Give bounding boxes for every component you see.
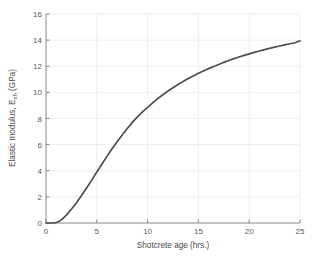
y-axis-title-main: Elastic modulus, E [8,99,17,167]
y-tick-label: 4 [38,167,43,176]
y-tick-label: 2 [38,193,43,202]
y-tick-label: 6 [38,141,43,150]
x-tick-label: 25 [296,227,305,236]
x-tick-label: 15 [194,227,203,236]
x-tick-label: 5 [95,227,100,236]
y-tick-label: 0 [38,219,43,228]
line-chart: 0246810121416 0510152025 Shotcrete age (… [0,0,315,262]
x-tick-label: 10 [143,227,152,236]
y-tick-label: 14 [33,36,42,45]
chart-figure: 0246810121416 0510152025 Shotcrete age (… [0,0,315,262]
svg-text:Elastic modulus, Esh (GPa): Elastic modulus, Esh (GPa) [8,69,18,167]
y-tick-label: 8 [38,115,43,124]
y-axis-title: Elastic modulus, Esh (GPa) [8,69,18,167]
y-tick-label: 10 [33,88,42,97]
x-tick-label: 0 [44,227,49,236]
x-tick-label: 20 [245,227,254,236]
y-tick-label: 12 [33,62,42,71]
y-tick-label: 16 [33,10,42,19]
y-axis-title-units: (GPa) [8,69,17,93]
x-axis-title: Shotcrete age (hrs.) [137,241,210,250]
